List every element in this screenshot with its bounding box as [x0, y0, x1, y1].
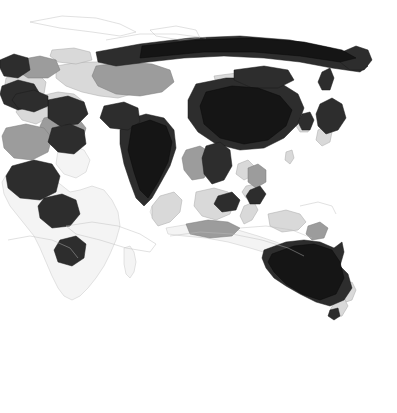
choropleth-map — [0, 0, 397, 336]
legend: Toneladas 2.000 20.000 48.000 90.000 407… — [0, 336, 397, 413]
map-svg — [0, 0, 397, 336]
figure-root: Toneladas 2.000 20.000 48.000 90.000 407… — [0, 0, 397, 413]
